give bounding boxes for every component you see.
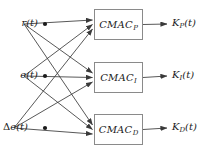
- block-cmac-p-label: CMACP: [99, 19, 138, 30]
- input-label-delta-e: Δe(t): [3, 121, 28, 132]
- input-label-r: r(t): [21, 17, 38, 28]
- block-cmac-i-label: CMACI: [100, 72, 137, 83]
- block-cmac-p[interactable]: CMACP: [94, 9, 143, 40]
- cmac-pid-block-diagram: CMACP CMACI CMACD r(t) e(t) Δe(t) KP(t) …: [0, 0, 208, 155]
- block-cmac-d[interactable]: CMACD: [94, 114, 143, 145]
- block-cmac-i[interactable]: CMACI: [94, 62, 143, 93]
- output-label-kd: KD(t): [172, 121, 197, 132]
- output-label-kp: KP(t): [172, 17, 196, 28]
- output-label-ki: KI(t): [172, 69, 194, 80]
- input-label-e: e(t): [20, 69, 38, 80]
- block-cmac-d-label: CMACD: [99, 124, 138, 135]
